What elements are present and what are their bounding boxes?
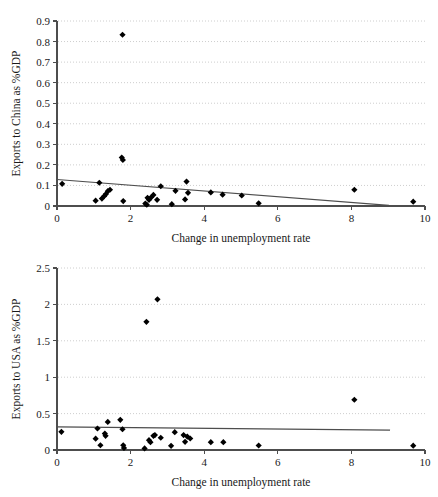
y-tick-label: 0.9: [36, 15, 50, 27]
x-tick-label: 10: [420, 456, 432, 468]
data-point-marker: [410, 199, 416, 205]
data-point-marker: [183, 178, 189, 184]
data-point-marker: [119, 32, 125, 38]
scatter-plot-figure: 00.10.20.30.40.50.60.70.80.90246810Chang…: [0, 0, 438, 497]
data-point-marker: [120, 198, 126, 204]
chart-panel-usa: 00.511.522.50246810Change in unemploymen…: [0, 250, 438, 497]
y-tick-label: 2.5: [36, 262, 50, 274]
y-tick-label: 1: [45, 371, 51, 383]
x-tick-label: 8: [349, 456, 355, 468]
data-point-marker: [208, 189, 214, 195]
x-axis-title: Change in unemployment rate: [172, 476, 311, 489]
x-tick-label: 4: [201, 212, 207, 224]
data-point-marker: [410, 443, 416, 449]
data-point-marker: [182, 196, 188, 202]
y-tick-label: 0.2: [36, 159, 50, 171]
x-tick-label: 10: [420, 212, 432, 224]
data-point-marker: [168, 443, 174, 449]
data-point-marker: [208, 439, 214, 445]
chart-panel-china: 00.10.20.30.40.50.60.70.80.90246810Chang…: [0, 0, 438, 250]
y-tick-label: 1.5: [36, 335, 50, 347]
x-tick-label: 4: [201, 456, 207, 468]
data-point-marker: [97, 442, 103, 448]
x-tick-label: 2: [128, 212, 134, 224]
gridlines: [58, 268, 425, 414]
x-axis-title: Change in unemployment rate: [172, 232, 311, 245]
y-axis-ticks: 00.10.20.30.40.50.60.70.80.9: [36, 15, 57, 212]
x-axis-ticks: 0246810: [54, 206, 431, 224]
data-point-marker: [58, 429, 64, 435]
data-point-marker: [59, 181, 65, 187]
y-tick-label: 0: [45, 444, 51, 456]
data-point-marker: [94, 425, 100, 431]
data-point-marker: [117, 417, 123, 423]
data-points: [59, 32, 416, 208]
gridlines: [58, 21, 425, 185]
y-tick-label: 0.3: [36, 138, 50, 150]
data-point-marker: [96, 180, 102, 186]
y-axis-ticks: 00.511.522.5: [36, 262, 57, 456]
x-tick-label: 8: [349, 212, 355, 224]
x-tick-label: 6: [275, 456, 281, 468]
data-point-marker: [158, 435, 164, 441]
axes: [57, 21, 425, 206]
data-point-marker: [154, 197, 160, 203]
china-scatter-chart: 00.10.20.30.40.50.60.70.80.90246810Chang…: [0, 0, 438, 250]
axis-lines: [57, 21, 425, 206]
y-tick-label: 0.8: [36, 36, 50, 48]
y-tick-label: 0.5: [36, 97, 50, 109]
y-tick-label: 0.1: [36, 179, 50, 191]
data-point-marker: [185, 190, 191, 196]
data-point-marker: [93, 436, 99, 442]
data-point-marker: [351, 397, 357, 403]
y-tick-label: 0.6: [36, 77, 50, 89]
y-tick-label: 0.4: [36, 118, 50, 130]
usa-scatter-chart: 00.511.522.50246810Change in unemploymen…: [0, 250, 438, 497]
data-point-marker: [93, 198, 99, 204]
x-tick-label: 6: [275, 212, 281, 224]
x-axis-ticks: 0246810: [54, 450, 431, 468]
trendline: [57, 427, 390, 430]
data-point-marker: [158, 183, 164, 189]
data-point-marker: [182, 439, 188, 445]
y-axis-title: Exports to China as %GDP: [10, 51, 23, 177]
data-point-marker: [256, 442, 262, 448]
y-tick-label: 0.7: [36, 56, 50, 68]
data-point-marker: [172, 429, 178, 435]
axis-lines: [57, 268, 425, 450]
x-tick-label: 2: [128, 456, 134, 468]
data-point-marker: [220, 439, 226, 445]
data-point-marker: [154, 296, 160, 302]
y-tick-label: 0.5: [36, 408, 50, 420]
data-point-marker: [351, 187, 357, 193]
x-tick-label: 0: [54, 456, 60, 468]
axes: [57, 268, 425, 450]
x-tick-label: 0: [54, 212, 60, 224]
data-point-marker: [105, 419, 111, 425]
y-tick-label: 2: [45, 298, 51, 310]
data-point-marker: [141, 445, 147, 451]
data-point-marker: [143, 319, 149, 325]
y-tick-label: 0: [45, 200, 51, 212]
y-axis-title: Exports to USA as %GDP: [10, 299, 23, 420]
